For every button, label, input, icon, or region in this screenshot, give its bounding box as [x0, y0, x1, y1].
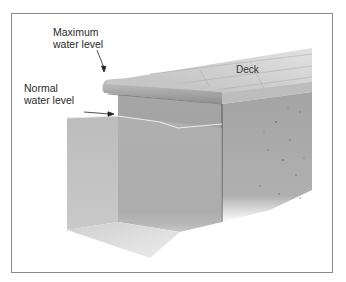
- label-maximum-line1: Maximum: [53, 26, 103, 38]
- water-left-face: [67, 116, 118, 230]
- concrete-side: [222, 92, 312, 222]
- label-normal-line2: water level: [24, 94, 74, 106]
- label-maximum-water-level: Maximum water level: [53, 26, 103, 50]
- label-maximum-line2: water level: [53, 38, 103, 50]
- label-deck: Deck: [236, 64, 259, 76]
- pool-wall-illustration: [0, 0, 346, 282]
- label-normal-water-level: Normal water level: [24, 82, 74, 106]
- label-normal-line1: Normal: [24, 82, 74, 94]
- water-front-face: [118, 116, 222, 222]
